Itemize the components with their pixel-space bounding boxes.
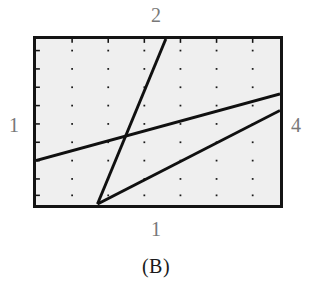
axis-label-bottom: 1 [0,219,312,239]
figure-caption: (B) [0,255,312,278]
plot-frame [33,36,283,208]
series-line-upper-line-1-4 [36,94,280,161]
axis-label-right: 4 [291,115,301,135]
series-line-lower-line [97,110,280,204]
series-layer [36,39,280,205]
axis-label-left: 1 [9,115,19,135]
plot-area [36,39,280,205]
series-line-steep-line-2 [97,39,165,204]
axis-label-top: 2 [0,5,312,25]
figure-panel: 2 1 4 1 (B) [0,0,312,289]
